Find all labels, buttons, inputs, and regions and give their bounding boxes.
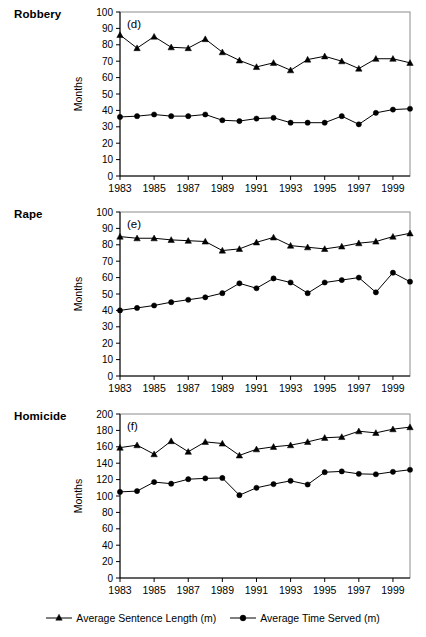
panel-title-rape: Rape (14, 208, 43, 220)
data-point-marker-triangle (202, 36, 208, 42)
data-point-marker-triangle (236, 57, 242, 63)
y-tick-label: 200 (96, 409, 113, 420)
panel-title-robbery: Robbery (14, 8, 61, 20)
data-point-marker-triangle (287, 242, 293, 248)
plot-frame (120, 414, 410, 578)
legend-item-time-served: Average Time Served (m) (230, 612, 379, 624)
x-tick-label: 1995 (313, 182, 337, 194)
plot-area-rape: 0102030405060708090100198319851987198919… (0, 200, 426, 400)
x-tick-label: 1983 (108, 382, 132, 394)
data-point-marker-circle (271, 115, 276, 120)
triangle-marker-icon (46, 612, 72, 624)
y-tick-label: 160 (96, 441, 113, 452)
y-axis-title: Months (72, 479, 84, 513)
y-tick-label: 10 (102, 354, 114, 365)
data-point-marker-triangle (407, 230, 413, 236)
data-point-marker-circle (339, 469, 344, 474)
y-tick-label: 140 (96, 458, 113, 469)
y-tick-label: 180 (96, 425, 113, 436)
y-tick-label: 70 (102, 256, 114, 267)
plot-area-homicide: 0204060801001201401601802001983198519871… (0, 402, 426, 602)
y-tick-label: 60 (102, 72, 114, 83)
y-axis-title: Months (72, 277, 84, 311)
data-point-marker-circle (288, 478, 293, 483)
plot-frame (120, 12, 410, 176)
x-tick-label: 1991 (245, 382, 269, 394)
data-point-marker-circle (356, 275, 361, 280)
x-tick-label: 1995 (313, 382, 337, 394)
data-point-marker-circle (356, 122, 361, 127)
data-point-marker-circle (322, 120, 327, 125)
y-tick-label: 20 (102, 138, 114, 149)
circle-marker-icon (230, 612, 256, 624)
data-point-marker-circle (407, 106, 412, 111)
panel-letter: (d) (127, 18, 141, 30)
y-tick-label: 100 (96, 207, 113, 218)
chart-legend: Average Sentence Length (m) Average Time… (0, 612, 426, 624)
data-point-marker-triangle (168, 438, 174, 444)
data-point-marker-circle (134, 114, 139, 119)
data-point-marker-circle (322, 470, 327, 475)
data-point-marker-triangle (407, 424, 413, 430)
data-point-marker-triangle (134, 442, 140, 448)
x-tick-label: 1987 (177, 182, 201, 194)
data-point-marker-circle (169, 114, 174, 119)
y-tick-label: 80 (102, 39, 114, 50)
x-tick-label: 1993 (279, 182, 303, 194)
y-tick-label: 40 (102, 105, 114, 116)
y-tick-label: 0 (107, 171, 113, 182)
data-point-marker-circle (305, 482, 310, 487)
data-point-marker-circle (237, 118, 242, 123)
legend-item-sentence-length: Average Sentence Length (m) (46, 612, 216, 624)
y-tick-label: 90 (102, 23, 114, 34)
data-point-marker-triangle (356, 428, 362, 434)
x-tick-label: 1983 (108, 584, 132, 596)
data-point-marker-circle (152, 112, 157, 117)
data-point-marker-circle (271, 276, 276, 281)
x-tick-label: 1999 (381, 382, 405, 394)
data-point-marker-triangle (322, 53, 328, 59)
x-tick-label: 1993 (279, 584, 303, 596)
x-tick-label: 1993 (279, 382, 303, 394)
y-tick-label: 50 (102, 289, 114, 300)
series-line-sentence-length (120, 427, 410, 455)
data-point-marker-circle (288, 120, 293, 125)
legend-label-time-served: Average Time Served (m) (260, 612, 379, 624)
x-tick-label: 1997 (347, 182, 371, 194)
x-tick-label: 1985 (142, 382, 166, 394)
y-tick-label: 50 (102, 89, 114, 100)
y-tick-label: 80 (102, 239, 114, 250)
data-point-marker-triangle (356, 65, 362, 71)
data-point-marker-circle (373, 110, 378, 115)
x-tick-label: 1989 (211, 584, 235, 596)
data-point-marker-circle (186, 477, 191, 482)
data-point-marker-circle (186, 114, 191, 119)
data-point-marker-circle (254, 286, 259, 291)
y-tick-label: 10 (102, 154, 114, 165)
panel-rape: Rape 01020304050607080901001983198519871… (0, 200, 426, 400)
series-line-time-served (120, 470, 410, 495)
y-tick-label: 60 (102, 523, 114, 534)
data-point-marker-circle (220, 475, 225, 480)
data-point-marker-triangle (117, 233, 123, 239)
data-point-marker-triangle (202, 439, 208, 445)
data-point-marker-triangle (236, 246, 242, 252)
data-point-marker-circle (237, 281, 242, 286)
x-tick-label: 1999 (381, 584, 405, 596)
data-point-marker-circle (390, 107, 395, 112)
data-point-marker-circle (373, 290, 378, 295)
x-tick-label: 1997 (347, 584, 371, 596)
x-tick-label: 1987 (177, 584, 201, 596)
data-point-marker-circle (117, 114, 122, 119)
data-point-marker-circle (134, 305, 139, 310)
data-point-marker-circle (152, 303, 157, 308)
data-point-marker-circle (152, 479, 157, 484)
data-point-marker-circle (220, 291, 225, 296)
y-tick-label: 30 (102, 121, 114, 132)
data-point-marker-circle (288, 280, 293, 285)
y-tick-label: 0 (107, 371, 113, 382)
data-point-marker-circle (203, 112, 208, 117)
data-point-marker-triangle (287, 67, 293, 73)
x-tick-label: 1983 (108, 182, 132, 194)
y-tick-label: 20 (102, 338, 114, 349)
